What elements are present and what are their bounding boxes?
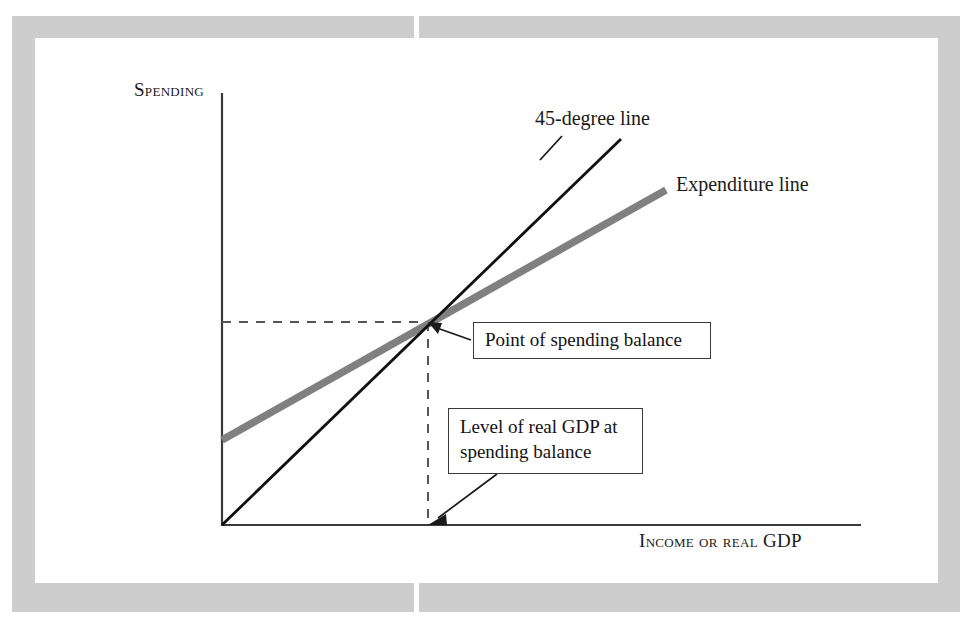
- arrowhead-gdp-level: [428, 514, 447, 525]
- forty-five-degree-line-label: 45-degree line: [535, 106, 650, 130]
- leader-line-spending-balance: [437, 328, 471, 340]
- leader-line-45-degree: [540, 136, 562, 160]
- x-axis-label: Income or real GDP: [639, 529, 802, 552]
- annotation-point-of-spending-balance: Point of spending balance: [473, 322, 711, 359]
- leader-line-gdp-level: [438, 474, 497, 518]
- annotation-gdp-text-line-2: spending balance: [460, 439, 631, 464]
- annotation-level-of-real-gdp: Level of real GDP at spending balance: [448, 408, 643, 474]
- arrowhead-spending-balance: [428, 322, 442, 334]
- expenditure-line: [222, 190, 666, 440]
- y-axis-label: Spending: [134, 78, 204, 101]
- annotation-gdp-text-line-1: Level of real GDP at: [460, 416, 618, 437]
- expenditure-line-label: Expenditure line: [676, 172, 809, 196]
- annotation-balance-text: Point of spending balance: [485, 327, 682, 352]
- figure-page: Spending Income or real GDP 45-degree li…: [0, 0, 972, 628]
